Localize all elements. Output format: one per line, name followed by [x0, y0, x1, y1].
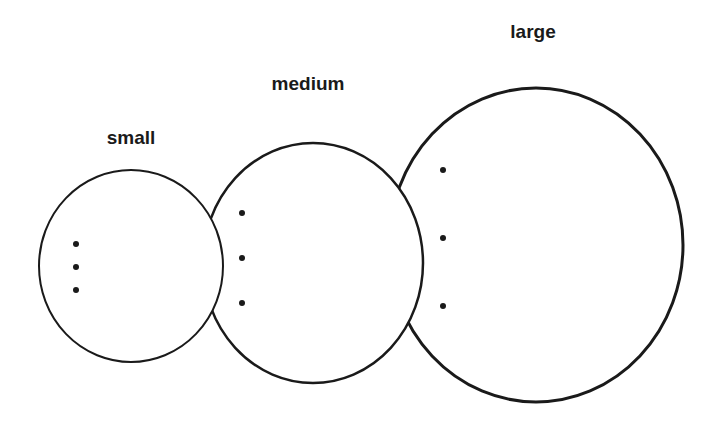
- small-label: small: [107, 127, 156, 148]
- size-comparison-diagram: small medium large: [0, 0, 718, 430]
- large-label: large: [510, 21, 555, 42]
- small-circle: [39, 170, 223, 362]
- large-circle: [389, 88, 683, 402]
- medium-circle: [203, 143, 423, 383]
- medium-label: medium: [272, 73, 345, 94]
